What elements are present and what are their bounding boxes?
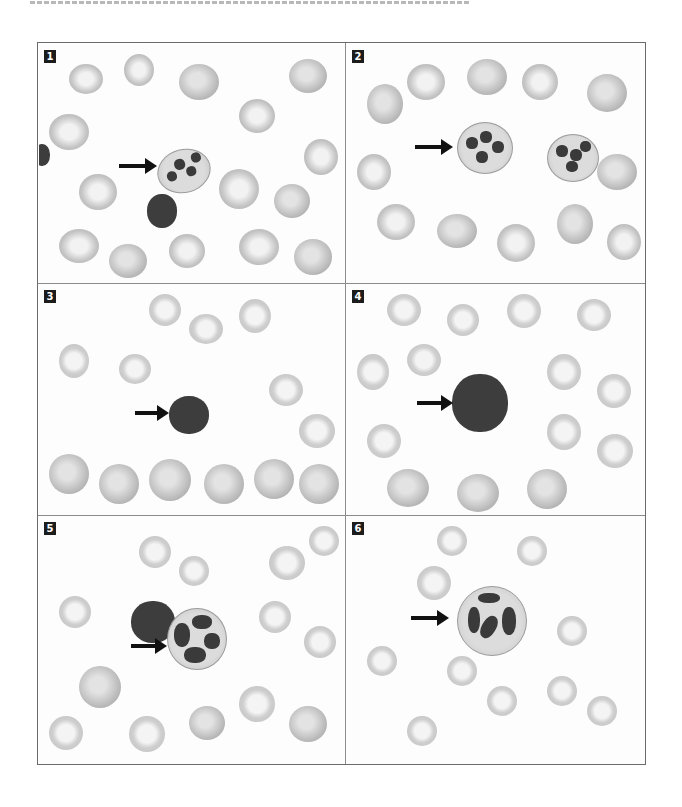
cropped-caption-line bbox=[30, 0, 470, 8]
red-blood-cell bbox=[139, 536, 171, 568]
red-blood-cell bbox=[497, 224, 535, 262]
cell-fragment bbox=[39, 144, 50, 166]
panel-label: 3 bbox=[44, 290, 56, 303]
red-blood-cell bbox=[377, 204, 415, 240]
red-blood-cell bbox=[597, 154, 637, 190]
red-blood-cell bbox=[149, 459, 191, 501]
red-blood-cell bbox=[522, 64, 558, 100]
panel-label: 2 bbox=[352, 50, 364, 63]
red-blood-cell bbox=[367, 646, 397, 676]
red-blood-cell bbox=[239, 299, 271, 333]
panel-3: 3 bbox=[39, 284, 344, 514]
arrow-icon bbox=[131, 644, 157, 648]
red-blood-cell bbox=[239, 99, 275, 133]
red-blood-cell bbox=[99, 464, 139, 504]
red-blood-cell bbox=[447, 656, 477, 686]
arrow-icon bbox=[415, 145, 443, 149]
red-blood-cell bbox=[169, 234, 205, 268]
red-blood-cell bbox=[79, 666, 121, 708]
red-blood-cell bbox=[507, 294, 541, 328]
red-blood-cell bbox=[597, 434, 633, 468]
red-blood-cell bbox=[254, 459, 294, 499]
red-blood-cell bbox=[179, 556, 209, 586]
red-blood-cell bbox=[547, 676, 577, 706]
red-blood-cell bbox=[387, 294, 421, 326]
red-blood-cell bbox=[204, 464, 244, 504]
red-blood-cell bbox=[129, 716, 165, 752]
red-blood-cell bbox=[269, 546, 305, 580]
red-blood-cell bbox=[309, 526, 339, 556]
red-blood-cell bbox=[179, 64, 219, 100]
red-blood-cell bbox=[49, 716, 83, 750]
red-blood-cell bbox=[517, 536, 547, 566]
red-blood-cell bbox=[357, 154, 391, 190]
red-blood-cell bbox=[387, 469, 429, 507]
granulocyte bbox=[547, 134, 599, 182]
red-blood-cell bbox=[467, 59, 507, 95]
arrow-icon bbox=[411, 616, 439, 620]
red-blood-cell bbox=[239, 229, 279, 265]
red-blood-cell bbox=[457, 474, 499, 512]
red-blood-cell bbox=[367, 424, 401, 458]
red-blood-cell bbox=[447, 304, 479, 336]
red-blood-cell bbox=[239, 686, 275, 722]
figure-frame: 1 2 bbox=[37, 42, 646, 765]
red-blood-cell bbox=[79, 174, 117, 210]
red-blood-cell bbox=[607, 224, 641, 260]
panel-label: 4 bbox=[352, 290, 364, 303]
red-blood-cell bbox=[294, 239, 332, 275]
red-blood-cell bbox=[259, 601, 291, 633]
red-blood-cell bbox=[49, 114, 89, 150]
red-blood-cell bbox=[274, 184, 310, 218]
red-blood-cell bbox=[417, 566, 451, 600]
panel-label: 6 bbox=[352, 522, 364, 535]
arrow-icon bbox=[417, 401, 443, 405]
panel-label: 1 bbox=[44, 50, 56, 63]
red-blood-cell bbox=[59, 344, 89, 378]
red-blood-cell bbox=[219, 169, 259, 209]
red-blood-cell bbox=[304, 626, 336, 658]
red-blood-cell bbox=[289, 59, 327, 93]
red-blood-cell bbox=[587, 696, 617, 726]
granulocyte bbox=[452, 374, 508, 432]
panel-label: 5 bbox=[44, 522, 56, 535]
granulocyte bbox=[457, 586, 527, 656]
red-blood-cell bbox=[119, 354, 151, 384]
red-blood-cell bbox=[189, 706, 225, 740]
arrow-icon bbox=[135, 411, 159, 415]
panel-4: 4 bbox=[347, 284, 645, 514]
arrow-icon bbox=[119, 164, 147, 168]
granulocyte bbox=[169, 396, 209, 434]
red-blood-cell bbox=[547, 414, 581, 450]
red-blood-cell bbox=[49, 454, 89, 494]
red-blood-cell bbox=[487, 686, 517, 716]
red-blood-cell bbox=[304, 139, 338, 175]
red-blood-cell bbox=[557, 616, 587, 646]
red-blood-cell bbox=[437, 526, 467, 556]
red-blood-cell bbox=[587, 74, 627, 112]
panel-6: 6 bbox=[347, 516, 645, 764]
red-blood-cell bbox=[367, 84, 403, 124]
lymphocyte bbox=[147, 194, 177, 228]
red-blood-cell bbox=[149, 294, 181, 326]
red-blood-cell bbox=[407, 716, 437, 746]
panel-1: 1 bbox=[39, 44, 344, 282]
red-blood-cell bbox=[59, 229, 99, 263]
vertical-divider bbox=[345, 43, 346, 764]
panel-5: 5 bbox=[39, 516, 344, 764]
red-blood-cell bbox=[124, 54, 154, 86]
red-blood-cell bbox=[69, 64, 103, 94]
granulocyte bbox=[152, 143, 216, 199]
red-blood-cell bbox=[289, 706, 327, 742]
granulocyte bbox=[167, 608, 227, 670]
red-blood-cell bbox=[577, 299, 611, 331]
red-blood-cell bbox=[59, 596, 91, 628]
red-blood-cell bbox=[597, 374, 631, 408]
red-blood-cell bbox=[557, 204, 593, 244]
red-blood-cell bbox=[407, 344, 441, 376]
red-blood-cell bbox=[527, 469, 567, 509]
red-blood-cell bbox=[437, 214, 477, 248]
red-blood-cell bbox=[547, 354, 581, 390]
red-blood-cell bbox=[357, 354, 389, 390]
red-blood-cell bbox=[407, 64, 445, 100]
